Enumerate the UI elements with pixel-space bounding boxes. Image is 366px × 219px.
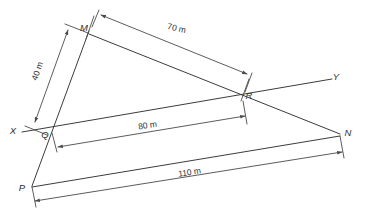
- ext-line-q-80m: [52, 133, 57, 152]
- dimension-label-40m: 40 m: [29, 60, 45, 81]
- geometry-diagram: X Y M Q R N P 40 m 70 m 80 m 110 m: [0, 0, 366, 219]
- dimension-label-80m: 80 m: [137, 119, 157, 132]
- point-label-q: Q: [41, 129, 49, 140]
- point-label-p: P: [19, 182, 26, 193]
- point-label-n: N: [345, 127, 352, 138]
- dimension-label-110m: 110 m: [177, 165, 201, 178]
- point-label-r: R: [246, 90, 253, 101]
- point-labels: X Y M Q R N P: [9, 22, 352, 193]
- ext-line-r-80m: [243, 101, 247, 124]
- point-label-x: X: [9, 125, 17, 136]
- dimension-label-70m: 70 m: [166, 21, 187, 35]
- line-mp: [32, 31, 89, 186]
- ext-line-p-110m: [32, 187, 36, 207]
- point-label-y: Y: [333, 71, 340, 82]
- main-lines: [22, 31, 340, 187]
- point-label-m: M: [80, 22, 88, 33]
- ext-line-n-110m: [340, 136, 344, 158]
- diagram-canvas: X Y M Q R N P 40 m 70 m 80 m 110 m: [0, 0, 366, 219]
